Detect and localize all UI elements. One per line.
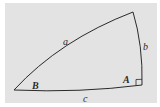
label-angle-B: B <box>31 80 39 91</box>
label-side-b: b <box>143 41 148 52</box>
side-a-arc <box>14 12 133 90</box>
spherical-triangle-diagram: a b c A B <box>0 0 160 107</box>
label-angle-A: A <box>122 74 130 85</box>
label-side-a: a <box>63 36 68 47</box>
right-angle-marker <box>136 79 142 85</box>
side-b-arc <box>133 12 142 85</box>
label-side-c: c <box>83 93 88 104</box>
